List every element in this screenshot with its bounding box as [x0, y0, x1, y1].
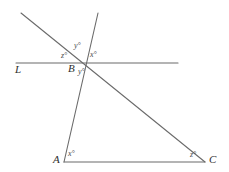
angle-z-at-C-label: z° [190, 151, 196, 159]
point-B-label: B [68, 63, 75, 74]
transversal-to-C-stroke [21, 13, 205, 162]
angle-y-at-B-above-label: y° [74, 42, 81, 50]
angle-z-at-B-upper-left-label: z° [61, 52, 67, 60]
geometry-canvas [0, 0, 229, 172]
angle-y-at-B-below-label: y° [78, 68, 85, 76]
point-C-label: C [209, 154, 216, 165]
point-A-label: A [53, 154, 60, 165]
line-L-label: L [15, 64, 21, 75]
angle-x-at-B-upper-right-label: x° [90, 51, 97, 59]
geometry-figure: L B A C z° y° x° y° x° z° [0, 0, 229, 172]
angle-x-at-A-label: x° [68, 150, 75, 158]
transversal-to-A-stroke [64, 13, 98, 162]
